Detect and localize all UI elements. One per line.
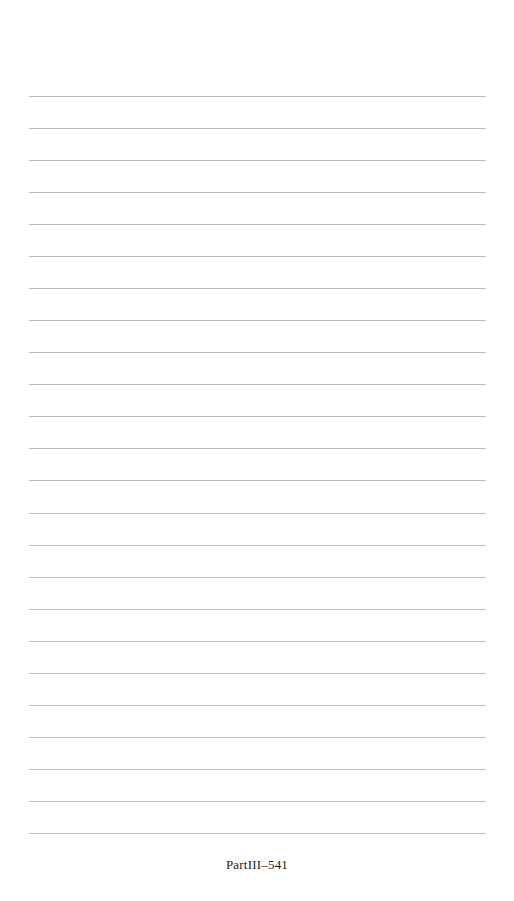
rule-line xyxy=(29,769,486,770)
rule-line xyxy=(29,513,486,514)
rule-line xyxy=(29,288,486,289)
rule-line xyxy=(29,737,486,738)
rule-line xyxy=(29,833,486,834)
rule-line xyxy=(29,673,486,674)
blank-ruled-page: PartIII–541 xyxy=(0,0,514,901)
page-number: PartIII–541 xyxy=(0,857,514,873)
rule-line xyxy=(29,384,486,385)
rule-line xyxy=(29,705,486,706)
rule-line xyxy=(29,96,486,97)
rule-line xyxy=(29,128,486,129)
rule-line xyxy=(29,320,486,321)
rule-line xyxy=(29,224,486,225)
rule-line xyxy=(29,416,486,417)
ruled-lines xyxy=(0,0,514,901)
rule-line xyxy=(29,352,486,353)
rule-line xyxy=(29,609,486,610)
rule-line xyxy=(29,480,486,481)
rule-line xyxy=(29,448,486,449)
rule-line xyxy=(29,545,486,546)
rule-line xyxy=(29,641,486,642)
rule-line xyxy=(29,192,486,193)
rule-line xyxy=(29,577,486,578)
rule-line xyxy=(29,801,486,802)
rule-line xyxy=(29,160,486,161)
rule-line xyxy=(29,256,486,257)
